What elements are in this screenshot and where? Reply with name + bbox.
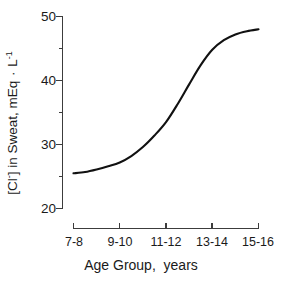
y-tick-label-30: 30 — [28, 138, 56, 151]
x-tick-label-9-10: 9-10 — [95, 235, 145, 249]
y-tick-label-20: 20 — [28, 202, 56, 215]
y-tick-label-50-wrap: 50 — [28, 10, 56, 23]
y-tick-label-50: 50 — [28, 10, 56, 23]
y-tick-label-40: 40 — [28, 74, 56, 87]
y-tick-label-30-wrap: 30 — [28, 138, 56, 151]
x-tick-label-7-8: 7-8 — [49, 235, 99, 249]
x-tick-label-11-12: 11-12 — [141, 235, 191, 249]
y-axis-title-prefix: [Cl — [5, 178, 20, 195]
chart-figure: 50 40 30 20 7-8 9-10 11-12 13-14 15-16 [… — [0, 0, 282, 287]
y-axis-title: [Cl-] in Sweat, mEq · L-1 — [0, 13, 26, 233]
y-tick-label-40-wrap: 40 — [28, 74, 56, 87]
x-tick-label-15-16: 15-16 — [233, 235, 282, 249]
y-axis-title-charge: - — [4, 175, 14, 178]
y-axis-title-dot: · — [5, 71, 20, 78]
data-curve-line — [74, 29, 259, 173]
y-tick-label-20-wrap: 20 — [28, 202, 56, 215]
x-tick-label-13-14: 13-14 — [187, 235, 237, 249]
x-axis-title: Age Group, years — [0, 256, 282, 274]
y-axis-title-exponent: -1 — [4, 51, 14, 59]
y-axis-title-middle: ] in Sweat, mEq — [5, 77, 20, 175]
y-axis-title-unit: L — [5, 59, 20, 70]
